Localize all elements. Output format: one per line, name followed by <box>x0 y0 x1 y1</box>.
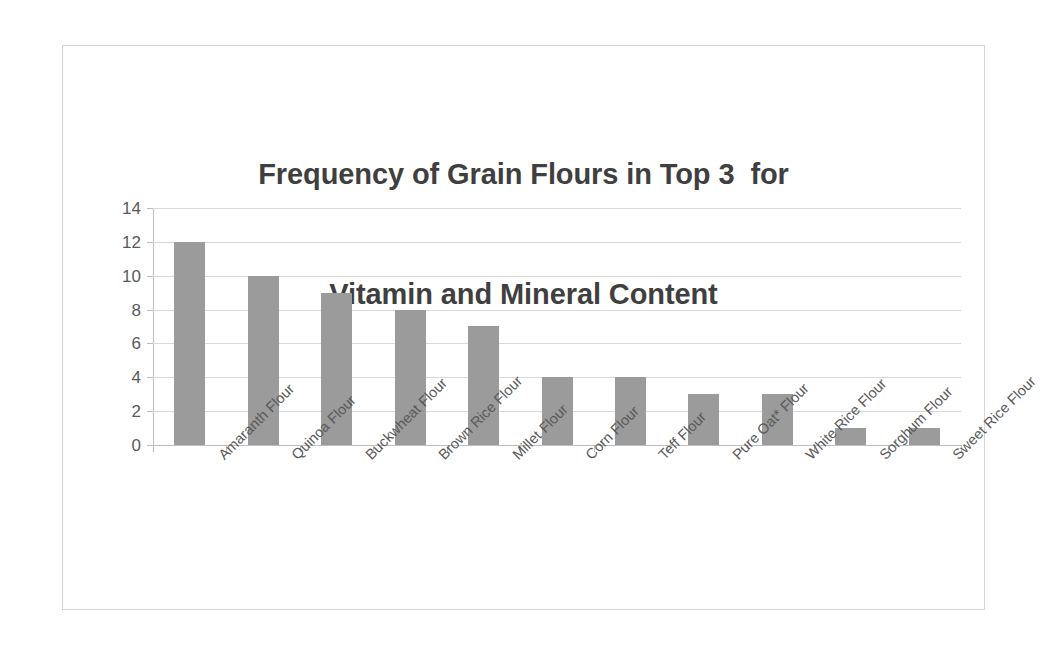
x-axis-label: Millet Flour <box>510 452 521 463</box>
x-axis-label: Brown Rice Flour <box>436 452 447 463</box>
y-axis-label-6: 6 <box>101 335 141 352</box>
x-axis-label: Buckwheat Flour <box>363 452 374 463</box>
y-axis-tick-2 <box>147 411 153 412</box>
y-axis-tick-0 <box>147 445 153 446</box>
y-axis-tick-4 <box>147 377 153 378</box>
chart-frame: Frequency of Grain Flours in Top 3 for V… <box>62 45 985 610</box>
x-axis-label: Sweet Rice Flour <box>950 452 961 463</box>
chart-title-line-1: Frequency of Grain Flours in Top 3 for <box>63 154 984 194</box>
x-axis-label: Amaranth Flour <box>216 452 227 463</box>
x-axis-tick-labels: Amaranth FlourQuinoa FlourBuckwheat Flou… <box>153 452 961 602</box>
y-axis-tick-8 <box>147 310 153 311</box>
x-axis-label: Sorghum Flour <box>877 452 888 463</box>
y-axis-label-14: 14 <box>101 200 141 217</box>
x-axis-label: Quinoa Flour <box>289 452 300 463</box>
x-axis-label: Pure Oat* Flour <box>730 452 741 463</box>
y-axis-tick-14 <box>147 208 153 209</box>
y-axis-label-10: 10 <box>101 268 141 285</box>
x-axis-label: White Rice Flour <box>803 452 814 463</box>
x-axis-label: Corn Flour <box>583 452 594 463</box>
bar[interactable] <box>174 242 205 445</box>
y-axis-tick-labels: 14121086420 <box>83 208 141 446</box>
y-axis-label-12: 12 <box>101 234 141 251</box>
y-axis-tick-10 <box>147 276 153 277</box>
x-axis-tick <box>153 445 154 452</box>
y-axis-tick-6 <box>147 343 153 344</box>
x-axis-label: Teff Flour <box>656 452 667 463</box>
y-axis-label-2: 2 <box>101 403 141 420</box>
y-axis-tick-12 <box>147 242 153 243</box>
y-axis-label-4: 4 <box>101 369 141 386</box>
y-axis-label-8: 8 <box>101 302 141 319</box>
y-axis-label-0: 0 <box>101 437 141 454</box>
